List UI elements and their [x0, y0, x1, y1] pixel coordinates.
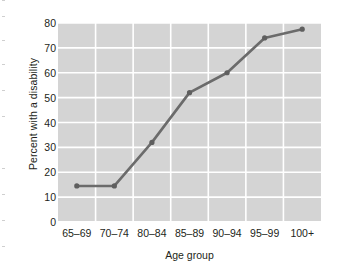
- x-axis-tick-label: 100+: [290, 227, 314, 239]
- y-axis-tick-labels: 01020304050607080: [30, 23, 56, 222]
- x-axis-tick-labels: 65–6970–7480–8485–8990–9495–99100+: [58, 227, 321, 243]
- line-chart-svg: [58, 23, 321, 222]
- y-axis-tick-label: 20: [30, 166, 56, 178]
- x-axis-tick-label: 65–69: [62, 227, 91, 239]
- page-edge-mark: [2, 64, 5, 65]
- y-axis-tick-label: 0: [30, 216, 56, 228]
- x-axis-tick-label: 85–89: [175, 227, 204, 239]
- page-edge-mark: [2, 116, 5, 117]
- y-axis-tick-label: 40: [30, 117, 56, 129]
- page-edge-mark: [2, 194, 5, 195]
- data-point-markers: [74, 27, 305, 189]
- x-axis-tick-label: 90–94: [212, 227, 241, 239]
- page-edge-mark: [2, 220, 5, 221]
- y-axis-tick-label: 50: [30, 92, 56, 104]
- y-axis-tick-label: 60: [30, 67, 56, 79]
- y-axis-tick-label: 80: [30, 17, 56, 29]
- page-edge-mark: [2, 0, 5, 1]
- y-axis-tick-label: 10: [30, 191, 56, 203]
- y-axis-tick-label: 30: [30, 141, 56, 153]
- data-series-line: [77, 29, 302, 186]
- chart-figure: Percent with a disability 01020304050607…: [0, 0, 342, 270]
- x-axis-title: Age group: [58, 249, 321, 261]
- y-axis-tick-label: 70: [30, 42, 56, 54]
- horizontal-grid-lines: [58, 23, 321, 222]
- page-edge-mark: [2, 90, 5, 91]
- page-edge-mark: [2, 16, 5, 17]
- page-edge-mark: [2, 40, 5, 41]
- page-edge-mark: [2, 168, 5, 169]
- x-axis-tick-label: 80–84: [137, 227, 166, 239]
- plot-area: [58, 23, 321, 222]
- x-axis-tick-label: 70–74: [100, 227, 129, 239]
- x-axis-tick-label: 95–99: [250, 227, 279, 239]
- page-edge-mark: [2, 246, 5, 247]
